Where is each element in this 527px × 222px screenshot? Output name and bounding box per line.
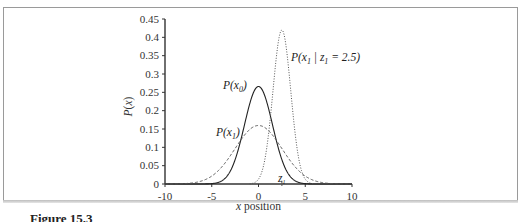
- y-tick-label: 0.3: [145, 68, 159, 80]
- y-tick-label: 0.2: [145, 104, 159, 116]
- y-tick-label: 0.05: [140, 159, 160, 171]
- figure-caption: Figure 15.3: [30, 211, 93, 222]
- y-tick-label: 0.25: [140, 86, 160, 98]
- y-axis-title: P(x): [122, 96, 135, 117]
- label-posterior: P(x1 | z1 = 2.5): [290, 51, 360, 66]
- y-tick-label: 0.35: [140, 49, 160, 61]
- label-p-x0: P(x0): [222, 79, 247, 94]
- y-tick-label: 0.15: [140, 123, 160, 135]
- y-tick-label: 0: [154, 178, 160, 190]
- chart: 00.050.10.150.20.250.30.350.40.45-10-505…: [0, 0, 527, 222]
- curve-p-x0-: [165, 86, 352, 184]
- label-z1: z1: [277, 172, 285, 185]
- y-tick-label: 0.1: [145, 141, 159, 153]
- y-tick-label: 0.45: [140, 13, 160, 25]
- y-tick-label: 0.4: [145, 31, 159, 43]
- caption-divider: [3, 200, 518, 203]
- curve-p-x1-: [165, 125, 352, 183]
- label-p-x1: P(x1): [215, 126, 240, 141]
- chart-labels: P(x0) P(x1) P(x1 | z1 = 2.5) z1: [215, 51, 360, 185]
